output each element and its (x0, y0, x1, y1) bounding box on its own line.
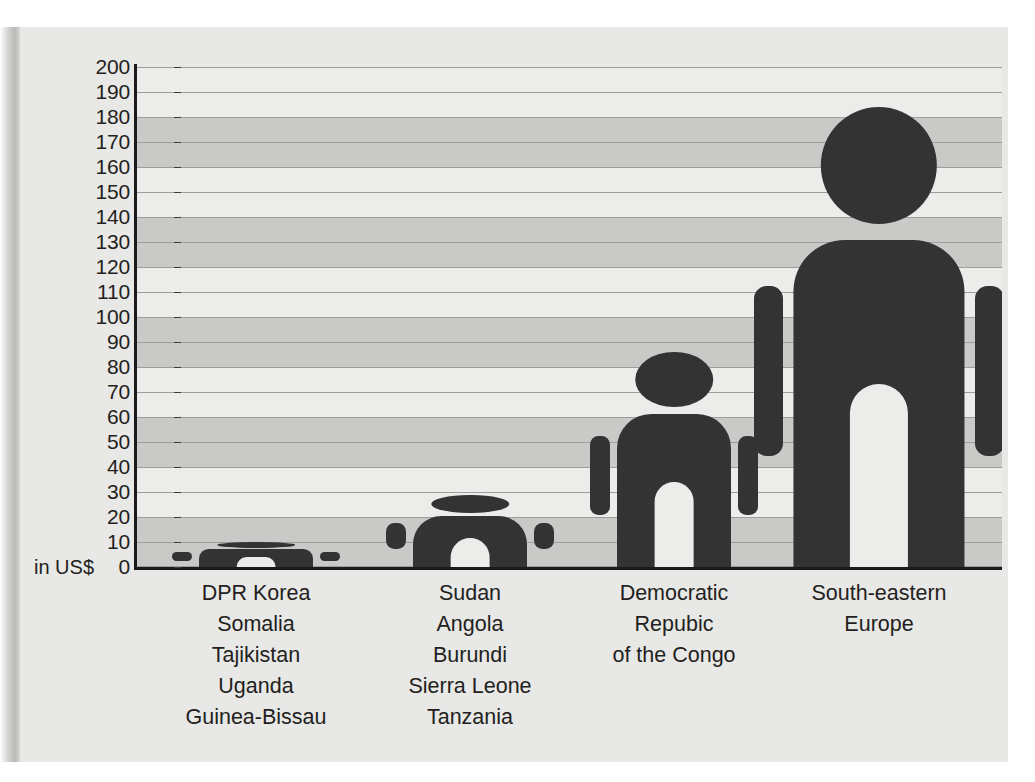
y-tick-mark (174, 342, 181, 343)
pictogram-figure (161, 542, 351, 567)
figure-arm (754, 286, 784, 456)
y-tick-mark (174, 267, 181, 268)
category-label-line: Uganda (131, 671, 381, 702)
category-label-line: of the Congo (549, 640, 799, 671)
y-tick-label: 50 (60, 431, 130, 452)
category-label-1: DPR KoreaSomaliaTajikistanUgandaGuinea-B… (131, 578, 381, 733)
y-tick-label: 180 (60, 106, 130, 127)
y-tick-label: 100 (60, 306, 130, 327)
y-tick-mark (174, 467, 181, 468)
y-tick-mark (174, 317, 181, 318)
y-tick-mark (174, 242, 181, 243)
y-tick-label: 70 (60, 381, 130, 402)
x-axis-line (134, 567, 1002, 570)
figure-head (635, 352, 713, 407)
category-label-line: Tajikistan (131, 640, 381, 671)
y-tick-label: 150 (60, 181, 130, 202)
figure-leg-gap (655, 482, 694, 567)
y-tick-mark (174, 167, 181, 168)
gridline (136, 92, 1002, 93)
left-edge-top-mask (0, 0, 20, 27)
y-tick-label: 110 (60, 281, 130, 302)
y-tick-label: 10 (60, 531, 130, 552)
y-tick-label: 130 (60, 231, 130, 252)
category-label-line: Somalia (131, 609, 381, 640)
category-label-line: Sierra Leone (345, 671, 595, 702)
category-label-line: DPR Korea (131, 578, 381, 609)
y-tick-mark (174, 217, 181, 218)
y-tick-mark (174, 292, 181, 293)
y-tick-label: 40 (60, 456, 130, 477)
figure-arm (172, 552, 192, 561)
gridline (136, 67, 1002, 68)
y-axis-unit-label: in US$ (34, 556, 94, 579)
category-label-line: South-eastern (754, 578, 1004, 609)
figure-arm (590, 436, 610, 515)
category-labels: DPR KoreaSomaliaTajikistanUgandaGuinea-B… (18, 578, 1008, 758)
y-tick-label: 120 (60, 256, 130, 277)
figure-head (821, 107, 937, 224)
chart-page: 2001901801701601501401301201101009080706… (0, 0, 1035, 782)
y-tick-mark (174, 192, 181, 193)
y-tick-mark (174, 542, 181, 543)
y-tick-mark (174, 92, 181, 93)
pictogram-figure (375, 495, 565, 568)
category-label-line: Guinea-Bissau (131, 702, 381, 733)
y-tick-mark (174, 417, 181, 418)
y-tick-label: 200 (60, 56, 130, 77)
figure-leg-gap (850, 384, 908, 567)
y-tick-label: 20 (60, 506, 130, 527)
y-tick-mark (174, 492, 181, 493)
figure-leg-gap (237, 557, 276, 567)
y-tick-mark (174, 517, 181, 518)
figure-arm (320, 552, 340, 561)
y-tick-label: 30 (60, 481, 130, 502)
y-tick-label: 170 (60, 131, 130, 152)
y-tick-mark (174, 367, 181, 368)
y-tick-label: 160 (60, 156, 130, 177)
y-tick-label: 60 (60, 406, 130, 427)
category-label-line: Europe (754, 609, 1004, 640)
y-tick-mark (174, 442, 181, 443)
category-label-line: Tanzania (345, 702, 595, 733)
figure-arm (534, 523, 554, 550)
figure-head (431, 495, 509, 513)
y-tick-mark (174, 67, 181, 68)
y-tick-label: 90 (60, 331, 130, 352)
y-tick-label: 80 (60, 356, 130, 377)
y-tick-label: 140 (60, 206, 130, 227)
plot-area (136, 67, 1002, 567)
y-tick-mark (174, 567, 181, 568)
figure-arm (386, 523, 406, 550)
figure-leg-gap (451, 538, 490, 567)
pictogram-figure (736, 107, 1002, 567)
y-tick-mark (174, 142, 181, 143)
category-label-4: South-easternEurope (754, 578, 1004, 640)
y-axis-line (134, 64, 137, 570)
figure-head (217, 542, 295, 548)
y-tick-label: 190 (60, 81, 130, 102)
y-tick-mark (174, 117, 181, 118)
figure-arm (975, 286, 1002, 456)
left-edge-gradient (0, 0, 20, 762)
y-tick-mark (174, 392, 181, 393)
